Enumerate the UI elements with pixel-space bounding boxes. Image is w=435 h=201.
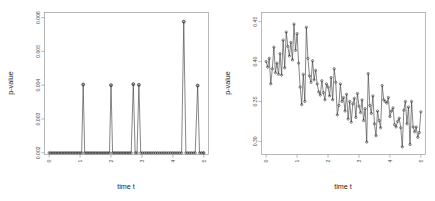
left-y-tick-label: 0.004	[35, 79, 41, 92]
chart-panel-left: 0.0020.0030.0040.0050.006 012345 time t …	[0, 0, 217, 201]
left-y-tick-label: 0.003	[35, 112, 41, 125]
figure-container: 0.0020.0030.0040.0050.006 012345 time t …	[0, 0, 435, 201]
left-data-series	[48, 20, 205, 154]
left-x-tick-label: 5	[201, 159, 207, 162]
left-y-tick-label: 0.006	[35, 11, 41, 24]
left-x-tick-label: 1	[77, 159, 83, 162]
right-x-tick-label: 1	[294, 159, 300, 162]
left-y-tick-label: 0.002	[35, 146, 41, 159]
left-series-path	[49, 22, 204, 153]
left-x-tick-label: 0	[46, 159, 52, 162]
right-y-axis-ticks: 0.300.350.400.45	[252, 17, 262, 147]
right-data-series	[265, 23, 422, 148]
chart-panel-right: 0.300.350.400.45 012345 time t p-value	[217, 0, 435, 201]
right-y-tick-label: 0.35	[252, 96, 258, 106]
left-plot-svg: 0.0020.0030.0040.0050.006 012345	[0, 0, 217, 201]
left-y-tick-label: 0.005	[35, 45, 41, 58]
right-x-tick-label: 3	[356, 159, 362, 162]
left-x-tick-label: 4	[170, 159, 176, 162]
left-x-tick-label: 2	[108, 159, 114, 162]
right-x-tick-label: 2	[325, 159, 331, 162]
right-y-tick-label: 0.45	[252, 17, 258, 27]
right-x-tick-label: 5	[418, 159, 424, 162]
right-x-axis-ticks: 012345	[263, 155, 424, 163]
right-plot-svg: 0.300.350.400.45 012345	[217, 0, 435, 201]
right-series-path	[266, 24, 421, 147]
right-x-tick-label: 0	[263, 159, 269, 162]
right-x-tick-label: 4	[387, 159, 393, 162]
left-y-axis-ticks: 0.0020.0030.0040.0050.006	[35, 11, 45, 159]
left-x-tick-label: 3	[139, 159, 145, 162]
right-y-tick-label: 0.30	[252, 136, 258, 146]
right-y-tick-label: 0.40	[252, 56, 258, 66]
left-x-axis-ticks: 012345	[46, 155, 207, 163]
